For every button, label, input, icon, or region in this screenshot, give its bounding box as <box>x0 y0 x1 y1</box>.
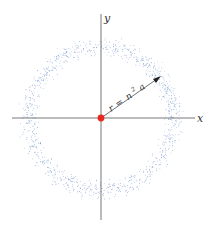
bohr-orbit-diagram: x y r = n 2 a <box>0 0 214 226</box>
x-axis-label: x <box>197 112 204 125</box>
svg-text:r = n 2: r = n 2 a <box>104 78 147 114</box>
nucleus <box>98 115 105 122</box>
y-axis-label: y <box>103 12 111 25</box>
radius-equation: r = n 2 a <box>104 78 147 114</box>
